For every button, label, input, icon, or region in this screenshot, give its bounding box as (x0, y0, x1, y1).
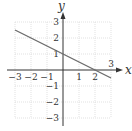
x-axis-label: x (125, 63, 132, 77)
y-tick-label: −2 (46, 97, 59, 107)
coordinate-plane: x y −3 −2 −1 1 2 3 3 2 1 −1 −2 −3 (0, 0, 132, 131)
y-tick-label: −3 (46, 113, 60, 123)
x-tick-label: −2 (24, 72, 37, 82)
y-axis-arrow-icon (61, 12, 66, 19)
y-tick-label: 2 (53, 33, 59, 43)
y-axis-label: y (57, 0, 65, 13)
x-tick-label: 2 (92, 72, 98, 82)
x-axis-arrow-icon (116, 68, 123, 73)
x-tick-label: 3 (108, 59, 114, 69)
x-tick-label: −3 (8, 72, 22, 82)
x-tick-label: 1 (76, 72, 82, 82)
y-tick-label: 3 (53, 17, 59, 27)
y-tick-label: −1 (46, 81, 59, 91)
